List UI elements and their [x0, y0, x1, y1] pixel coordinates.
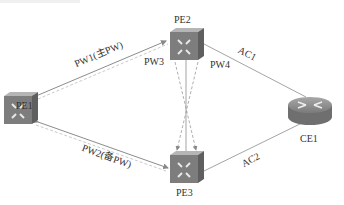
ce1-router-icon[interactable]: [288, 97, 332, 125]
link-pw2: [36, 122, 168, 171]
pe2-switch-icon[interactable]: [170, 28, 204, 60]
network-diagram: PE2 PE1 PE3 CE1 PW1(主PW) PW2(备PW) PW3 PW…: [0, 0, 344, 205]
pw3-label: PW3: [144, 57, 164, 67]
ce1-label: CE1: [300, 134, 318, 144]
pe3-label: PE3: [176, 188, 193, 198]
pe3-switch-icon[interactable]: [170, 151, 204, 183]
diagram-lines: [0, 0, 344, 205]
pe2-label: PE2: [174, 15, 191, 25]
pw4-label: PW4: [210, 60, 230, 70]
link-pw3: [175, 62, 198, 150]
pe1-label: PE1: [16, 101, 33, 111]
